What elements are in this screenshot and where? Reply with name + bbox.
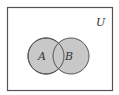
set-b-label: B [64, 50, 73, 63]
universal-set-label: U [96, 16, 106, 29]
venn-diagram: U A B [0, 0, 119, 95]
set-a-label: A [37, 50, 46, 63]
